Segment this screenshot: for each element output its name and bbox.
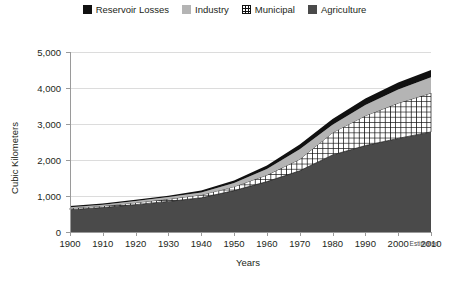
legend-item-label: Municipal <box>255 4 295 15</box>
legend-item-municipal: Municipal <box>242 4 295 15</box>
y-axis-tick-label: 0 <box>56 227 61 238</box>
x-axis-tick-label: 1900 <box>59 238 80 249</box>
y-axis-tick-label: 5,000 <box>37 47 61 58</box>
legend-item-label: Agriculture <box>321 4 366 15</box>
y-axis-tick-label: 4,000 <box>37 83 61 94</box>
y-axis-tick-labels: 01,0002,0003,0004,0005,000 <box>37 47 61 238</box>
x-axis-tick-label: 1910 <box>92 238 113 249</box>
stacked-area-chart: 01,0002,0003,0004,0005,000 1900191019201… <box>0 18 449 284</box>
chart-legend: Reservoir Losses Industry Municipal Agri… <box>0 0 449 18</box>
x-axis-tick-label: 1940 <box>191 238 212 249</box>
legend-item-reservoir-losses: Reservoir Losses <box>83 4 169 15</box>
x-axis-tick-label: 1950 <box>224 238 245 249</box>
x-axis-tick-label: 1960 <box>256 238 277 249</box>
y-axis-title: Cubic Kilometers <box>9 122 20 194</box>
y-axis-tick-label: 3,000 <box>37 119 61 130</box>
legend-item-label: Reservoir Losses <box>96 4 169 15</box>
x-axis-title: Years <box>236 257 260 268</box>
square-swatch-lightgray-icon <box>182 5 191 14</box>
legend-item-label: Industry <box>195 4 229 15</box>
x-axis-tick-label: 1970 <box>289 238 310 249</box>
legend-item-agriculture: Agriculture <box>308 4 366 15</box>
y-axis-tick-label: 2,000 <box>37 155 61 166</box>
x-axis-tick-labels: 1900191019201930194019501960197019801990… <box>59 238 441 249</box>
square-swatch-darkgray-icon <box>308 5 317 14</box>
estimated-note-label: Estimated <box>410 240 439 247</box>
square-swatch-black-icon <box>83 5 92 14</box>
x-axis-tick-label: 1990 <box>355 238 376 249</box>
x-axis-tick-label: 1980 <box>322 238 343 249</box>
x-axis-tick-label: 2000 <box>388 238 409 249</box>
x-axis-tick-label: 1920 <box>125 238 146 249</box>
square-swatch-crosshatch-icon <box>242 5 251 14</box>
chart-container: 01,0002,0003,0004,0005,000 1900191019201… <box>0 18 449 284</box>
y-axis-tick-label: 1,000 <box>37 191 61 202</box>
legend-item-industry: Industry <box>182 4 229 15</box>
x-axis-tick-label: 1930 <box>158 238 179 249</box>
chart-series-areas <box>70 70 431 232</box>
